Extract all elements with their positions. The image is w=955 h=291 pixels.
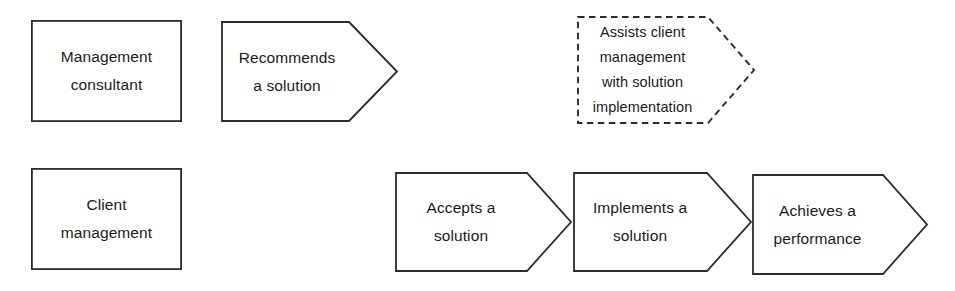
achieves-a-performance-outline [752, 174, 928, 275]
achieves-a-performance-chevron[interactable]: Achieves a performance [752, 174, 928, 275]
client-management-outline [31, 168, 182, 270]
implements-a-solution-chevron[interactable]: Implements a solution [573, 172, 752, 272]
implements-a-solution-outline [573, 172, 752, 272]
management-consultant-outline [31, 20, 182, 122]
recommends-a-solution-chevron[interactable]: Recommends a solution [221, 21, 398, 122]
management-consultant-box[interactable]: Management consultant [31, 20, 182, 122]
accepts-a-solution-outline [395, 172, 572, 272]
recommends-a-solution-outline [221, 21, 398, 122]
process-flow-diagram: Management consultant Recommends a solut… [0, 0, 955, 291]
assists-client-management-outline [577, 16, 755, 124]
accepts-a-solution-chevron[interactable]: Accepts a solution [395, 172, 572, 272]
client-management-box[interactable]: Client management [31, 168, 182, 270]
assists-client-management-chevron[interactable]: Assists client management with solution … [577, 16, 755, 124]
